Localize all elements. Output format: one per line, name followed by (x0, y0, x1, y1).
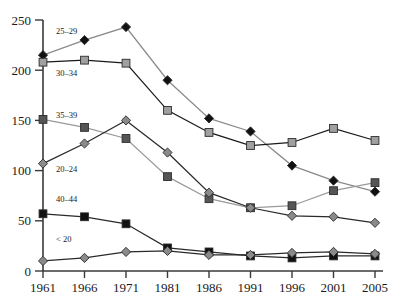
x-tick-label: 1966 (72, 280, 99, 295)
data-point-marker-series-2 (164, 173, 172, 181)
data-point-marker-series-4 (122, 220, 130, 228)
line-chart: 050100150200250 196119661971198119861991… (0, 0, 393, 308)
series-line-25-29 (43, 27, 375, 192)
x-tick-label: 1971 (113, 280, 139, 295)
data-point-marker-series-2 (81, 124, 89, 132)
series-label-s3: 20–24 (56, 164, 78, 174)
data-point-marker-series-3 (80, 139, 89, 148)
data-point-marker-series-5 (121, 247, 130, 256)
data-point-marker-series-3 (370, 218, 379, 227)
data-point-marker-series-0 (370, 187, 379, 196)
y-tick-label: 100 (12, 163, 32, 178)
series-label-s0: 25–29 (56, 26, 77, 36)
data-point-marker-series-2 (39, 115, 47, 123)
data-point-marker-series-1 (371, 137, 379, 145)
data-point-marker-series-1 (39, 58, 47, 66)
data-point-marker-series-3 (38, 159, 47, 168)
y-tick-label: 0 (25, 264, 32, 279)
x-tick-label: 1961 (30, 280, 56, 295)
series-label-s2: 35–39 (56, 110, 77, 120)
data-point-marker-series-1 (122, 59, 130, 67)
data-point-marker-series-5 (38, 256, 47, 265)
data-point-marker-series-0 (80, 35, 89, 44)
x-tick-label: 1991 (238, 280, 264, 295)
x-tick-label: 1981 (155, 280, 181, 295)
data-point-marker-series-3 (329, 212, 338, 221)
y-tick-label: 250 (12, 13, 32, 28)
data-point-marker-series-2 (371, 179, 379, 187)
data-point-marker-series-1 (164, 106, 172, 114)
y-axis-tick-labels: 050100150200250 (12, 13, 32, 279)
data-point-marker-series-5 (80, 253, 89, 262)
series-label-s4: 40–44 (56, 194, 78, 204)
data-point-marker-series-3 (287, 211, 296, 220)
y-tick-label: 50 (18, 213, 31, 228)
data-point-marker-series-2 (288, 202, 296, 210)
x-tick-label: 2001 (321, 280, 347, 295)
x-tick-label: 1996 (279, 280, 306, 295)
data-point-marker-series-1 (330, 125, 338, 133)
data-point-marker-series-2 (330, 187, 338, 195)
y-tick-label: 200 (12, 63, 32, 78)
y-tick-label: 150 (12, 113, 32, 128)
series-label-s5: < 20 (56, 234, 71, 244)
chart-series-markers (38, 22, 379, 265)
x-tick-label: 2005 (362, 280, 388, 295)
data-point-marker-series-1 (81, 56, 89, 64)
data-point-marker-series-4 (81, 213, 89, 221)
data-point-marker-series-1 (205, 129, 213, 137)
x-axis-tick-labels: 196119661971198119861991199620012005 (30, 280, 388, 295)
x-tick-label: 1986 (196, 280, 223, 295)
data-point-marker-series-0 (329, 176, 338, 185)
chart-container: 050100150200250 196119661971198119861991… (0, 0, 393, 308)
data-point-marker-series-1 (247, 142, 255, 150)
series-inline-labels: 25–2930–3435–3920–2440–44< 20 (56, 26, 78, 244)
data-point-marker-series-2 (122, 135, 130, 143)
series-label-s1: 30–34 (56, 68, 78, 78)
data-point-marker-series-4 (39, 210, 47, 218)
chart-series-lines (43, 27, 375, 261)
data-point-marker-series-1 (288, 139, 296, 147)
